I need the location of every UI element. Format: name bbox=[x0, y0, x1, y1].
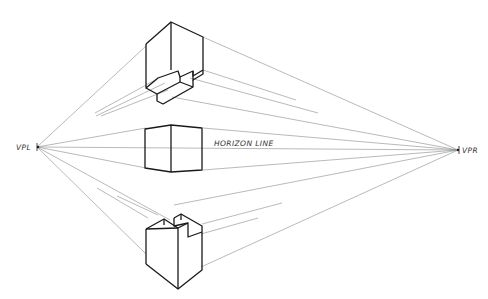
vanishing-point-right bbox=[457, 146, 459, 154]
box-above-horizon bbox=[146, 22, 203, 104]
guide-lines-left bbox=[37, 46, 458, 254]
horizon-line-label: HORIZON LINE bbox=[214, 139, 274, 148]
vpl-label: VPL bbox=[16, 143, 31, 152]
box-on-horizon bbox=[145, 125, 202, 172]
vanishing-point-left bbox=[37, 143, 39, 151]
vpr-label: VPR bbox=[462, 146, 478, 155]
guide-lines-right bbox=[172, 37, 458, 267]
perspective-diagram: VPL VPR HORIZON LINE bbox=[0, 0, 488, 299]
box-below-horizon bbox=[146, 214, 202, 289]
